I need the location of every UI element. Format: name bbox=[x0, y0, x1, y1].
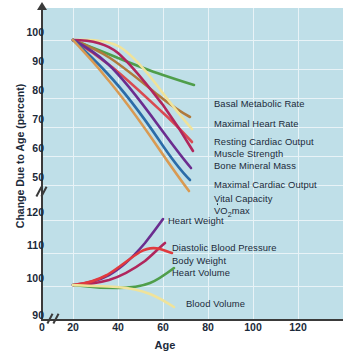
series-label-vital-capacity: Vital Capacity bbox=[214, 194, 273, 204]
curve-blood-volume bbox=[73, 285, 174, 307]
series-label-heart-volume: Heart Volume bbox=[172, 268, 230, 278]
series-label-body-weight: Body Weight bbox=[172, 256, 226, 266]
vo2max-suffix: max bbox=[232, 205, 250, 216]
series-label-resting-cardiac-output: Resting Cardiac Output bbox=[214, 137, 314, 147]
series-label-heart-weight: Heart Weight bbox=[168, 216, 224, 226]
curve-heart-weight bbox=[73, 219, 163, 285]
series-label-maximal-cardiac-output: Maximal Cardiac Output bbox=[214, 180, 317, 190]
series-label-blood-volume: Blood Volume bbox=[186, 299, 245, 309]
series-label-diastolic-blood-pressure: Diastolic Blood Pressure bbox=[172, 243, 277, 253]
chart-figure: 100 90 80 70 60 50 120 110 100 90 0 20 4… bbox=[0, 0, 343, 358]
series-label-maximal-heart-rate: Maximal Heart Rate bbox=[214, 119, 299, 129]
series-label-bone-mineral-mass: Bone Mineral Mass bbox=[214, 161, 296, 171]
series-label-basal-metabolic-rate: Basal Metabolic Rate bbox=[214, 99, 305, 109]
series-label-muscle-strength: Muscle Strength bbox=[214, 149, 283, 159]
